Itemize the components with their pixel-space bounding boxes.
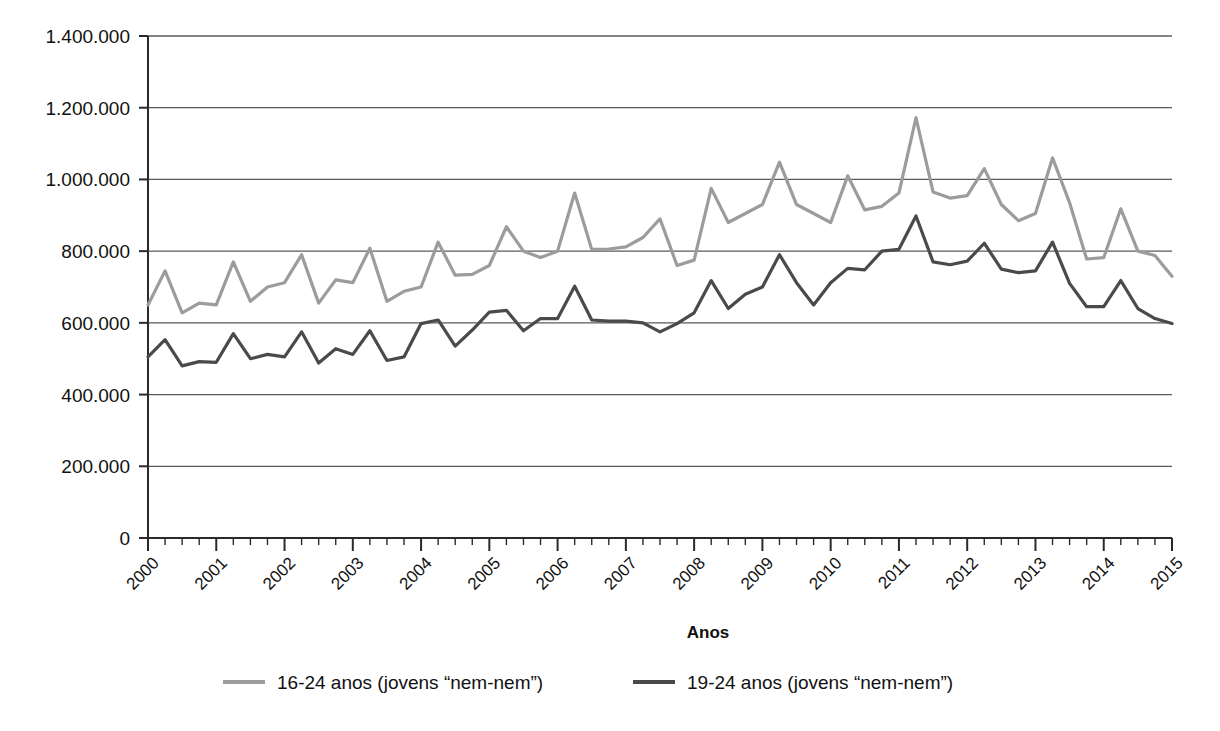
x-tick-label: 2013 bbox=[1010, 553, 1050, 593]
gridlines bbox=[148, 36, 1172, 466]
y-tick-label: 1.000.000 bbox=[45, 169, 130, 190]
x-tick-label: 2003 bbox=[327, 553, 367, 593]
x-tick-label: 2002 bbox=[259, 553, 299, 593]
y-tick-marks bbox=[139, 36, 148, 538]
x-tick-label: 2009 bbox=[737, 553, 777, 593]
x-tick-label: 2004 bbox=[396, 553, 436, 593]
x-tick-label: 2006 bbox=[532, 553, 572, 593]
x-tick-label: 2007 bbox=[601, 553, 641, 593]
x-tick-label: 2011 bbox=[874, 553, 913, 592]
y-tick-label: 1.200.000 bbox=[45, 98, 130, 119]
y-tick-label: 800.000 bbox=[61, 241, 130, 262]
y-tick-label: 200.000 bbox=[61, 456, 130, 477]
x-tick-label: 2005 bbox=[464, 553, 504, 593]
legend-label-1: 16-24 anos (jovens “nem-nem”) bbox=[277, 672, 543, 693]
y-tick-label: 1.400.000 bbox=[45, 26, 130, 47]
x-tick-labels: 2000200120022003200420052006200720082009… bbox=[123, 553, 1187, 593]
chart-legend: 16-24 anos (jovens “nem-nem”)19-24 anos … bbox=[223, 672, 953, 693]
x-axis-title: Anos bbox=[687, 623, 730, 642]
line-chart: 0200.000400.000600.000800.0001.000.0001.… bbox=[0, 0, 1220, 731]
x-tick-label: 2000 bbox=[123, 553, 163, 593]
y-tick-label: 400.000 bbox=[61, 385, 130, 406]
x-tick-label: 2001 bbox=[191, 553, 231, 593]
chart-container: 0200.000400.000600.000800.0001.000.0001.… bbox=[0, 0, 1220, 731]
x-tick-label: 2015 bbox=[1147, 553, 1187, 593]
x-tick-label: 2012 bbox=[942, 553, 982, 593]
x-tick-label: 2014 bbox=[1078, 553, 1118, 593]
y-tick-label: 0 bbox=[119, 528, 130, 549]
y-tick-labels: 0200.000400.000600.000800.0001.000.0001.… bbox=[45, 26, 130, 549]
x-tick-marks bbox=[148, 538, 1172, 551]
y-tick-label: 600.000 bbox=[61, 313, 130, 334]
series-line-1 bbox=[148, 118, 1172, 313]
series-line-2 bbox=[148, 216, 1172, 366]
series-lines bbox=[148, 118, 1172, 366]
x-tick-label: 2008 bbox=[669, 553, 709, 593]
legend-label-2: 19-24 anos (jovens “nem-nem”) bbox=[687, 672, 953, 693]
x-tick-label: 2010 bbox=[805, 553, 845, 593]
